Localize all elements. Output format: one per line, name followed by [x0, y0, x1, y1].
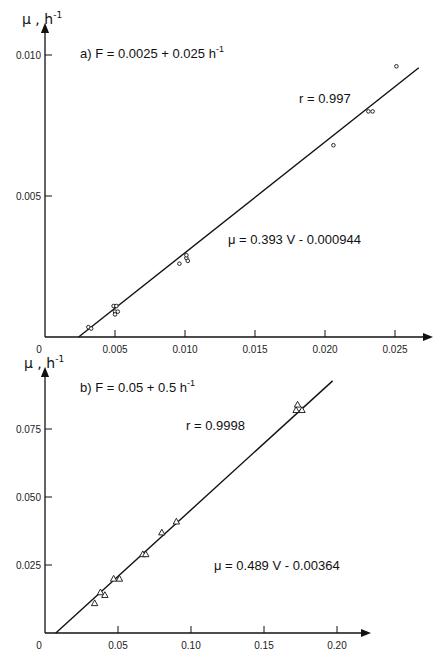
data-point-circle: [395, 64, 399, 68]
x-tick-label: 0.20: [327, 640, 347, 651]
data-point-circle: [332, 143, 336, 147]
x-tick-label: 0: [36, 344, 42, 355]
data-point-triangle: [91, 600, 97, 606]
y-tick-label: 0.075: [16, 424, 41, 435]
x-tick-label: 0.015: [242, 344, 267, 355]
x-tick-label: 0.005: [102, 344, 127, 355]
panel-b-title: b) F = 0.05 + 0.5 h-1: [80, 378, 195, 395]
x-tick-label: 0.15: [254, 640, 274, 651]
panel-a-y-ticks: 0.0050.010: [16, 50, 52, 202]
panel-b-x-ticks: 00.050.100.150.20: [36, 626, 347, 651]
panel-a-title: a) F = 0.0025 + 0.025 h-1: [80, 44, 224, 61]
y-tick-label: 0.025: [16, 560, 41, 571]
panel-b-r-value: r = 0.9998: [186, 418, 245, 433]
panel-a-regression-line: [79, 68, 419, 337]
data-point-circle: [178, 262, 182, 266]
chart-figure: 0.0050.010 00.0050.0100.0150.0200.025 μ …: [0, 0, 438, 659]
x-tick-label: 0.025: [382, 344, 407, 355]
y-tick-label: 0.050: [16, 492, 41, 503]
x-tick-label: 0.10: [181, 640, 201, 651]
x-tick-label: 0.010: [172, 344, 197, 355]
data-point-circle: [113, 313, 117, 317]
data-point-triangle: [293, 407, 299, 413]
panel-a-y-label: μ , h-1: [22, 10, 62, 27]
panel-b-y-ticks: 0.0250.0500.075: [16, 424, 52, 571]
data-point-triangle: [159, 529, 165, 535]
x-tick-label: 0: [36, 640, 42, 651]
x-tick-label: 0.05: [108, 640, 128, 651]
panel-a-equation: μ = 0.393 V - 0.000944: [228, 232, 361, 247]
panel-a-x-ticks: 00.0050.0100.0150.0200.025: [36, 330, 408, 355]
data-point-circle: [186, 259, 190, 263]
y-tick-label: 0.010: [16, 50, 41, 61]
data-point-circle: [89, 327, 93, 331]
data-point-circle: [371, 110, 375, 114]
panel-b-y-label: μ , h-1: [24, 354, 64, 371]
data-point-circle: [367, 110, 371, 114]
x-tick-label: 0.020: [312, 344, 337, 355]
panel-b-equation: μ = 0.489 V - 0.00364: [214, 558, 340, 573]
panel-a-plot: 0.0050.010 00.0050.0100.0150.0200.025 μ …: [16, 10, 428, 355]
panel-a-data-points: [87, 64, 399, 330]
data-point-circle: [185, 253, 189, 257]
panel-a-r-value: r = 0.997: [299, 91, 351, 106]
panel-b-plot: 0.0250.0500.075 00.050.100.150.20 μ , h-…: [16, 354, 366, 651]
data-point-triangle: [294, 401, 300, 407]
y-tick-label: 0.005: [16, 191, 41, 202]
data-point-circle: [115, 304, 119, 308]
